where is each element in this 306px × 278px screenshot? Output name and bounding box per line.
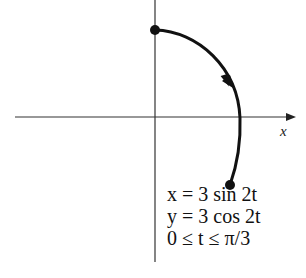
parametric-curve [155, 30, 240, 185]
x-axis-arrow-icon [286, 113, 296, 121]
x-axis-label: x [280, 123, 287, 140]
equations: x = 3 sin 2t y = 3 cos 2t 0 ≤ t ≤ π/3 [167, 183, 261, 249]
equation-x: x = 3 sin 2t [167, 183, 261, 205]
equation-y: y = 3 cos 2t [167, 205, 261, 227]
start-point [150, 25, 160, 35]
parameter-range: 0 ≤ t ≤ π/3 [167, 227, 261, 249]
